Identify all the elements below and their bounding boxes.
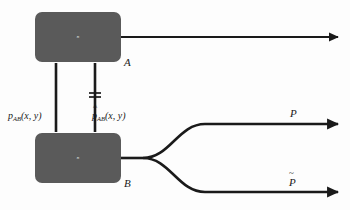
node-a-outer-label: A (123, 56, 131, 68)
left-link-label: pAB(x, y) (7, 110, 42, 122)
left-link-label-args: (x, y) (21, 110, 42, 122)
output-p-tilde-label: P (288, 176, 296, 188)
node-b-outer-label: B (124, 177, 131, 189)
output-p-label: P (289, 107, 297, 119)
right-link-label-args: (x, y) (105, 110, 126, 122)
diagram-canvas: n A n B pAB(x, y) ^ pAB(x, y) P ~ (0, 0, 350, 210)
diagram-svg: n A n B pAB(x, y) ^ pAB(x, y) P ~ (0, 0, 350, 210)
output-p-tilde-curve (143, 158, 338, 192)
left-link-label-sub: AB (12, 115, 21, 122)
output-p-curve (143, 124, 338, 158)
right-link-label: pAB(x, y) (91, 110, 126, 122)
right-link-label-sub: AB (96, 115, 105, 122)
